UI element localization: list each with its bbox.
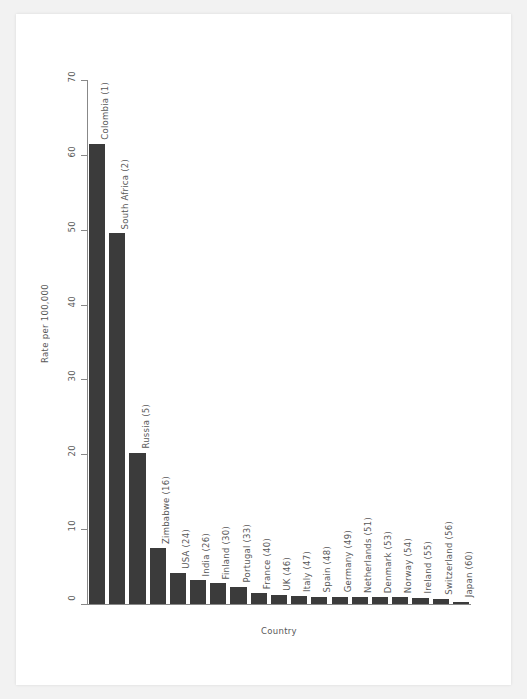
bar[interactable] <box>372 597 388 604</box>
bar-group[interactable]: South Africa (2) <box>107 74 127 604</box>
bar-group[interactable]: Portugal (33) <box>228 74 248 604</box>
y-axis-tick-label: 70 <box>68 71 80 82</box>
x-axis-line <box>87 604 471 605</box>
bar-chart-figure: Rate per 100,000 Country 010203040506070… <box>16 14 511 685</box>
bar[interactable] <box>271 595 287 604</box>
bar[interactable] <box>251 593 267 604</box>
bar-group[interactable]: Ireland (55) <box>410 74 430 604</box>
bar-group[interactable]: Italy (47) <box>289 74 309 604</box>
y-axis-tick-label: 10 <box>68 520 80 531</box>
y-axis-tick-label: 0 <box>68 595 80 601</box>
bar-group[interactable]: India (26) <box>188 74 208 604</box>
y-axis-tick-label: 40 <box>68 296 80 307</box>
bar-group[interactable]: Spain (48) <box>309 74 329 604</box>
bar-group[interactable]: Finland (30) <box>208 74 228 604</box>
bar[interactable] <box>170 573 186 604</box>
bar[interactable] <box>392 597 408 604</box>
y-axis-tick-label: 30 <box>68 370 80 381</box>
bar-group[interactable]: USA (24) <box>168 74 188 604</box>
bar[interactable] <box>352 597 368 604</box>
bar[interactable] <box>210 583 226 604</box>
bar[interactable] <box>332 597 348 604</box>
bar[interactable] <box>453 602 469 604</box>
bar-group[interactable]: UK (46) <box>269 74 289 604</box>
bar-group[interactable]: Switzerland (56) <box>431 74 451 604</box>
bar-group[interactable]: Zimbabwe (16) <box>148 74 168 604</box>
y-axis-title: Rate per 100,000 <box>40 284 50 363</box>
bar-group[interactable]: Germany (49) <box>330 74 350 604</box>
bar[interactable] <box>129 453 145 604</box>
bar-category-label: Japan (60) <box>465 551 474 597</box>
bar[interactable] <box>150 548 166 604</box>
bar[interactable] <box>190 580 206 604</box>
y-axis-tick <box>81 604 87 605</box>
bar[interactable] <box>291 596 307 604</box>
page-sheet: Rate per 100,000 Country 010203040506070… <box>16 14 511 685</box>
bar[interactable] <box>412 598 428 604</box>
bar-group[interactable]: Denmark (53) <box>370 74 390 604</box>
y-axis-tick-label: 60 <box>68 146 80 157</box>
x-axis-title: Country <box>87 626 471 636</box>
bar-group[interactable]: Colombia (1) <box>87 74 107 604</box>
bar[interactable] <box>433 599 449 604</box>
bar[interactable] <box>89 144 105 604</box>
bar[interactable] <box>311 597 327 604</box>
y-axis-tick-label: 50 <box>68 221 80 232</box>
bar-group[interactable]: Japan (60) <box>451 74 471 604</box>
bar-group[interactable]: France (40) <box>249 74 269 604</box>
bar-group[interactable]: Russia (5) <box>127 74 147 604</box>
bar-group[interactable]: Netherlands (51) <box>350 74 370 604</box>
plot-area: Colombia (1)South Africa (2)Russia (5)Zi… <box>87 74 471 604</box>
bar-group[interactable]: Norway (54) <box>390 74 410 604</box>
bar[interactable] <box>230 587 246 604</box>
y-axis-tick-label: 20 <box>68 445 80 456</box>
bar[interactable] <box>109 233 125 604</box>
